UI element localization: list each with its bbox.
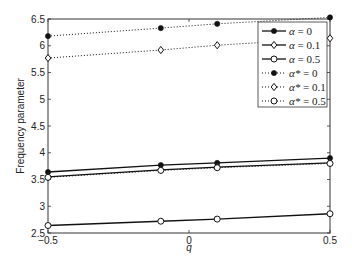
y-axis-label: Frequency parameter xyxy=(15,78,26,174)
legend-label: α* = 0 xyxy=(289,67,318,79)
x-axis-label: q xyxy=(186,242,192,253)
star-marker-icon xyxy=(271,70,276,75)
y-tick-label: 4 xyxy=(39,147,45,158)
star-marker-icon xyxy=(271,28,276,33)
y-tick-label: 3 xyxy=(39,201,45,212)
circle-marker-icon xyxy=(214,165,220,171)
y-tick-label: 3.5 xyxy=(31,174,45,185)
circle-marker-icon xyxy=(271,98,277,104)
frequency-parameter-chart: 2.533.544.555.566.5 −0.500.5 q Frequency… xyxy=(0,0,352,270)
x-tick-label: −0.5 xyxy=(38,235,58,246)
circle-marker-icon xyxy=(45,223,51,229)
star-marker-icon xyxy=(327,15,332,20)
y-tick-label: 4.5 xyxy=(31,121,45,132)
circle-marker-icon xyxy=(327,211,333,217)
star-marker-icon xyxy=(158,25,163,30)
legend: α = 0α = 0.1α = 0.5α* = 0α* = 0.1α* = 0.… xyxy=(258,22,327,107)
y-tick-label: 5.5 xyxy=(31,67,45,78)
star-marker-icon xyxy=(45,34,50,39)
circle-marker-icon xyxy=(158,167,164,173)
y-tick-label: 6 xyxy=(39,40,45,51)
legend-label: α* = 0.5 xyxy=(289,95,326,107)
y-tick-label: 5 xyxy=(39,94,45,105)
circle-marker-icon xyxy=(45,174,51,180)
y-tick-label: 6.5 xyxy=(31,14,45,25)
circle-marker-icon xyxy=(327,160,333,166)
legend-label: α = 0.1 xyxy=(289,39,320,51)
circle-marker-icon xyxy=(214,216,220,222)
legend-label: α = 0 xyxy=(289,25,312,37)
legend-label: α = 0.5 xyxy=(289,53,321,65)
circle-marker-icon xyxy=(271,56,277,62)
x-tick-label: 0.5 xyxy=(323,235,337,246)
circle-marker-icon xyxy=(158,218,164,224)
star-marker-icon xyxy=(215,21,220,26)
legend-label: α* = 0.1 xyxy=(289,81,326,93)
